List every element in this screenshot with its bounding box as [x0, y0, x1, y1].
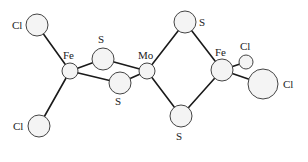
atom-s1-icon: [92, 48, 114, 70]
atom-fe2-icon: [211, 59, 233, 81]
atom-label-fe2: Fe: [215, 46, 226, 58]
molecule-canvas: ClClFeSSMoSSFeClCl: [0, 0, 308, 162]
atom-label-s3: S: [199, 16, 205, 28]
atom-label-s1: S: [98, 33, 104, 45]
atom-mo-icon: [139, 63, 155, 79]
atom-label-fe1: Fe: [63, 49, 74, 61]
atom-cl1-icon: [26, 14, 48, 36]
atom-label-s2: S: [115, 95, 121, 107]
atom-label-s4: S: [176, 130, 182, 142]
molecular-diagram: ClClFeSSMoSSFeClCl: [0, 0, 308, 162]
atom-s4-icon: [170, 105, 192, 127]
atom-s2-icon: [109, 72, 131, 94]
atom-label-cl4: Cl: [283, 78, 293, 90]
atom-label-cl2: Cl: [13, 120, 23, 132]
atom-fe1-icon: [62, 63, 78, 79]
atom-s3-icon: [174, 11, 196, 33]
atom-cl4-icon: [248, 69, 278, 99]
atom-cl2-icon: [28, 115, 50, 137]
atoms-layer: [26, 11, 278, 137]
atom-label-cl1: Cl: [12, 19, 22, 31]
atom-cl3-icon: [239, 55, 253, 69]
atom-label-mo: Mo: [138, 49, 154, 61]
atom-label-cl3: Cl: [240, 40, 250, 52]
